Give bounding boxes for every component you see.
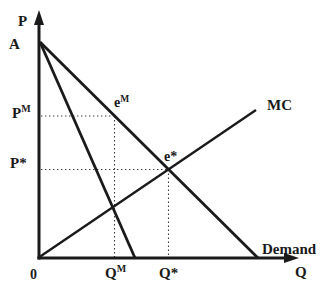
mc-curve-label: MC <box>267 97 292 113</box>
competitive-quantity-label: Q* <box>159 265 178 281</box>
competitive-price-label: P* <box>10 155 27 171</box>
origin-label: 0 <box>30 267 37 282</box>
competitive-point-label: e* <box>164 149 177 164</box>
demand-curve-label: Demand <box>262 241 317 257</box>
intercept-a-label: A <box>9 36 20 52</box>
p-axis-label: P <box>18 13 27 29</box>
monopoly-equilibrium-diagram: P Q 0 A PM P* QM Q* eM e* MC Demand <box>0 0 332 294</box>
diagram-canvas: P Q 0 A PM P* QM Q* eM e* MC Demand <box>0 0 332 294</box>
q-axis-label: Q <box>295 264 307 280</box>
